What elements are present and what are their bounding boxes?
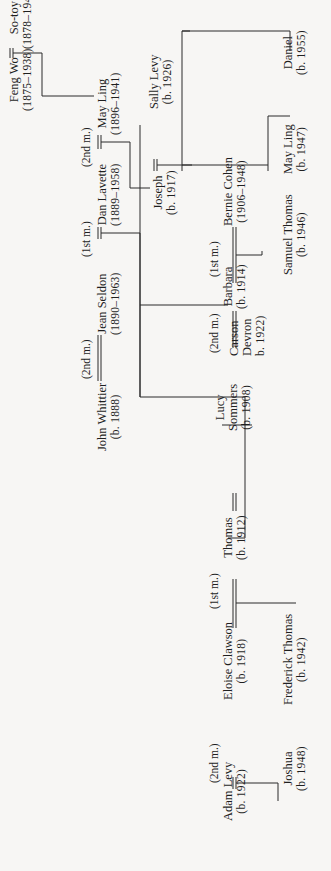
person-lucy-sommers: Lucy Sommers (b. 1908)	[214, 384, 253, 431]
marriage-label-carson-barbara: (2nd m.)	[208, 313, 220, 353]
person-dates: (b. 1908)	[240, 384, 253, 431]
person-dates: (b. 1948)	[295, 746, 308, 791]
person-name: So-toy	[8, 0, 21, 49]
person-name: Jean Seldon	[96, 272, 109, 335]
person-name: Samuel Thomas	[282, 194, 295, 275]
marriage-label-barbara-bernie: (1st m.)	[208, 241, 220, 277]
person-barbara: Barbara (b. 1914)	[222, 264, 248, 309]
person-name: Bernie Cohen	[222, 157, 235, 226]
family-tree-diagram: So-toy (1878–1940) Feng Wo (1875–1938) M…	[0, 0, 331, 871]
person-joseph: Joseph (b. 1917)	[152, 170, 178, 215]
marriage-label-john-jean: (2nd m.)	[80, 339, 92, 379]
marriage-label-dan-may: (2nd m.)	[80, 127, 92, 167]
person-dates: (1889–1958)	[109, 163, 122, 226]
person-name: Frederick Thomas	[282, 614, 295, 705]
person-name: Joshua	[282, 746, 295, 791]
person-dates: (1890–1963)	[109, 272, 122, 335]
person-carson-devron: Carson Devron b. 1922)	[228, 315, 267, 356]
person-dates: (b. 1914)	[235, 264, 248, 309]
person-name: May Ling	[282, 124, 295, 174]
person-dates: (b. 1926)	[161, 54, 174, 109]
person-name-line2: Devron	[241, 315, 254, 356]
person-name: Thomas	[222, 515, 235, 560]
person-dates: (b. 1946)	[295, 194, 308, 275]
marriage-label-eloise-thomas: (1st m.)	[208, 573, 220, 609]
person-dates: (b. 1917)	[165, 170, 178, 215]
person-feng-wo: Feng Wo (1875–1938)	[8, 48, 34, 111]
person-name: Feng Wo	[8, 48, 21, 111]
person-dates: (b. 1942)	[295, 614, 308, 705]
person-name: John Whittier	[96, 383, 109, 451]
person-dates: (1896–1941)	[109, 72, 122, 135]
person-adam-levy: Adam Levy (b. 1922)	[222, 762, 248, 821]
person-dates: (b. 1947)	[295, 124, 308, 174]
person-thomas: Thomas (b. 1912)	[222, 515, 248, 560]
person-bernie-cohen: Bernie Cohen (1906–1948)	[222, 157, 248, 226]
person-dates: (1875–1938)	[21, 48, 34, 111]
person-name: Dan Lavette	[96, 163, 109, 226]
person-name: Joseph	[152, 170, 165, 215]
marriage-label-jean-dan: (1st m.)	[80, 221, 92, 257]
person-name: May Ling	[96, 72, 109, 135]
person-name: Barbara	[222, 264, 235, 309]
person-jean-seldon: Jean Seldon (1890–1963)	[96, 272, 122, 335]
marriage-label-adam-eloise: (2nd m.)	[208, 743, 220, 783]
person-so-toy: So-toy (1878–1940)	[8, 0, 34, 49]
person-samuel-thomas: Samuel Thomas (b. 1946)	[282, 194, 308, 275]
person-dates: (1906–1948)	[235, 157, 248, 226]
person-dates: b. 1922)	[254, 315, 267, 356]
person-daniel: Daniel (b. 1955)	[282, 30, 308, 75]
person-dates: (b. 1922)	[235, 762, 248, 821]
person-dates: (b. 1912)	[235, 515, 248, 560]
person-name: Sally Levy	[148, 54, 161, 109]
person-name-line2: Sommers	[227, 384, 240, 431]
person-frederick-thomas: Frederick Thomas (b. 1942)	[282, 614, 308, 705]
person-sally-levy: Sally Levy (b. 1926)	[148, 54, 174, 109]
person-dates: (b. 1888)	[109, 383, 122, 451]
person-name: Adam Levy	[222, 762, 235, 821]
person-dates: (b. 1955)	[295, 30, 308, 75]
person-dan-lavette: Dan Lavette (1889–1958)	[96, 163, 122, 226]
person-eloise-clawson: Eloise Clawson (b. 1918)	[222, 622, 248, 700]
person-john-whittier: John Whittier (b. 1888)	[96, 383, 122, 451]
person-dates: (1878–1940)	[21, 0, 34, 49]
person-joshua: Joshua (b. 1948)	[282, 746, 308, 791]
person-name: Daniel	[282, 30, 295, 75]
person-may-ling-1947: May Ling (b. 1947)	[282, 124, 308, 174]
person-may-ling-1896: May Ling (1896–1941)	[96, 72, 122, 135]
person-dates: (b. 1918)	[235, 622, 248, 700]
person-name: Eloise Clawson	[222, 622, 235, 700]
